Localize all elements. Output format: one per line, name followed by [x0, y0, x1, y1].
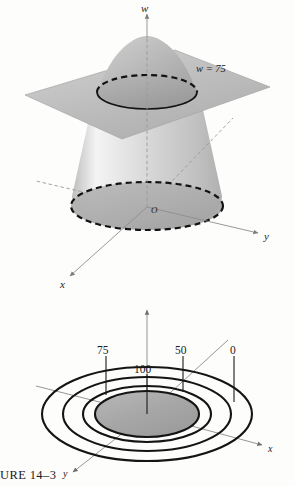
level-label-0: 0	[230, 344, 236, 356]
bottom-panel-level-curves: 75 50 0 100 x y	[0, 296, 295, 486]
figure-caption-block: URE 14–3	[0, 462, 120, 486]
plane-label: w = 75	[196, 63, 226, 74]
x-axis-label: x	[59, 278, 65, 290]
figure-caption: URE 14–3	[0, 468, 56, 482]
level-label-50: 50	[175, 344, 187, 356]
x-axis-label-bottom: x	[267, 443, 273, 454]
level-label-100: 100	[134, 363, 152, 375]
w-axis-label: w	[141, 2, 149, 14]
origin-label: O	[151, 205, 158, 215]
y-axis-label: y	[263, 230, 269, 242]
level-label-75: 75	[97, 344, 109, 356]
top-panel-cone-and-plane: w y x O w = 75	[0, 0, 295, 300]
figure-14-3: w y x O w = 75	[0, 0, 295, 486]
